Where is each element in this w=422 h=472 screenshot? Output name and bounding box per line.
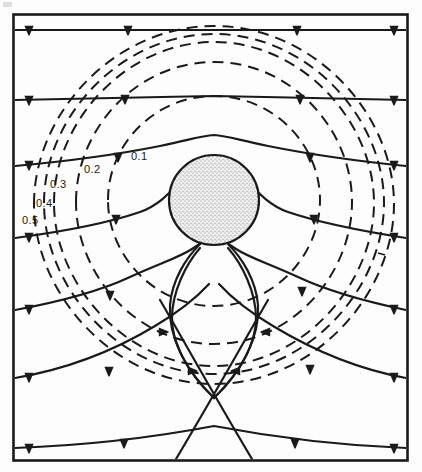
contour-label-0-5: 0.5 <box>22 214 39 226</box>
streamline-6-right <box>219 284 406 378</box>
contour-label-0-2: 0.2 <box>84 163 101 175</box>
streamline-6-left <box>15 284 209 378</box>
cylinder-body <box>169 155 259 245</box>
figure-panel: 0.1 0.2 0.3 0.4 0.5 <box>0 0 422 472</box>
contour-label-0-4: 0.4 <box>36 197 53 209</box>
flow-field-plot <box>0 0 422 472</box>
crossing-leg-left <box>160 300 252 459</box>
scan-artifact-dash <box>378 253 385 255</box>
contour-label-0-3: 0.3 <box>50 178 67 190</box>
streamline-7 <box>15 426 406 448</box>
contour-label-0-1: 0.1 <box>131 150 148 162</box>
